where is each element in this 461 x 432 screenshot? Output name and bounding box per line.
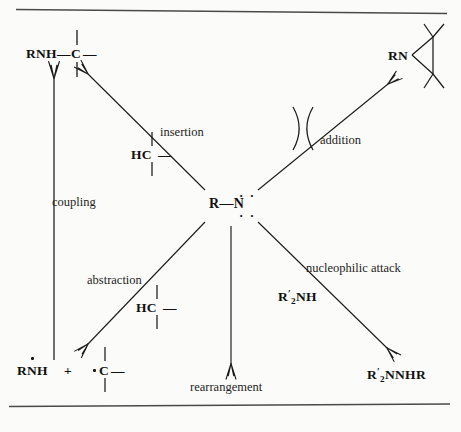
rule-top (16, 10, 447, 14)
hydrazine-product-formula: R′2NNHR (367, 367, 426, 384)
rule-bottom (9, 404, 450, 407)
hydrazine-rest: NNHR (385, 367, 426, 382)
abstraction-reagent-hc: HC (136, 301, 157, 315)
insertion-product-bond-left: — (57, 47, 71, 61)
amine-r: R (278, 289, 288, 304)
carbon-radical-dot-icon (93, 369, 96, 372)
nitrene-lone-pair-bottom: · · (239, 209, 256, 222)
insertion-product-bond-right: — (83, 47, 97, 61)
abstraction-reagent-bond: — (163, 301, 177, 315)
label-abstraction: abstraction (87, 274, 142, 287)
nitrene-reaction-scheme: R—N · · · · RNH — C — RN HC — HC — RNH +… (0, 0, 461, 432)
aminyl-radical-dot-icon (31, 357, 34, 360)
aziridine-structure (412, 24, 444, 88)
arrow-nucleophilic-attack (258, 222, 387, 348)
hydrazine-r: R (367, 367, 377, 382)
abstraction-product-bond: — (111, 364, 125, 378)
amine-rest: NH (296, 289, 317, 304)
label-addition: addition (320, 134, 361, 147)
insertion-reagent-hc: HC (131, 148, 152, 162)
insertion-product-carbon: C (71, 47, 81, 61)
abstraction-product-aminyl: RNH (17, 364, 48, 378)
label-insertion: insertion (160, 126, 204, 139)
nucleophile-amine-formula: R′2NH (278, 289, 317, 306)
nitrene-lone-pair-top: · · (239, 189, 256, 202)
alkene-icon (293, 107, 313, 150)
insertion-product-rnh: RNH (26, 47, 57, 61)
plus-sign: + (64, 364, 72, 378)
label-rearrangement: rearrangement (190, 381, 262, 394)
insertion-reagent-bond: — (158, 148, 172, 162)
aziridine-nitrogen-label: RN (388, 49, 408, 63)
abstraction-product-carbon: C (99, 364, 109, 378)
label-coupling: coupling (52, 196, 96, 209)
label-nucleophilic-attack: nucleophilic attack (306, 262, 401, 275)
